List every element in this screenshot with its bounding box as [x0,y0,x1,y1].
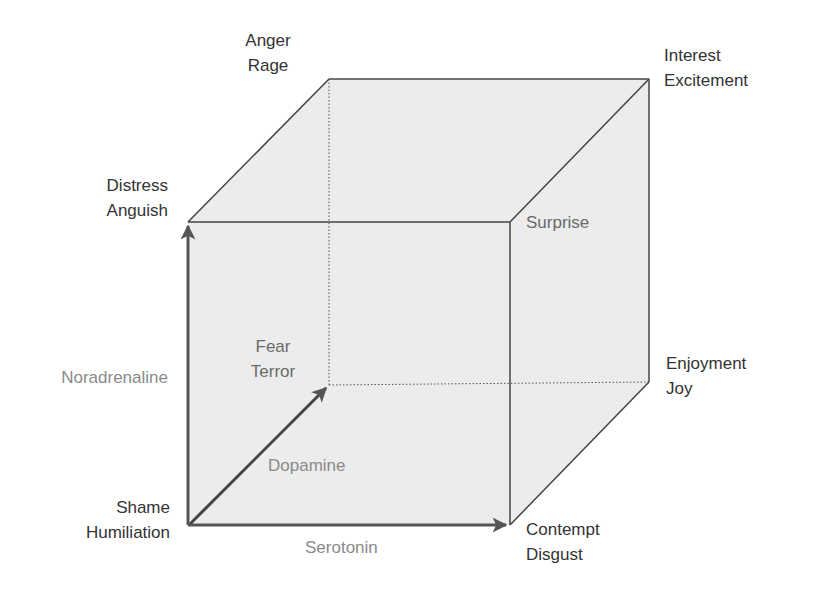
label-line: Distress [60,173,168,198]
corner-label-shame-humiliation: Shame Humiliation [40,495,170,545]
corner-label-distress-anguish: Distress Anguish [60,173,168,223]
label-line: Terror [233,359,313,384]
axis-label-dopamine: Dopamine [268,453,346,478]
label-line: Surprise [526,210,589,235]
label-line: Interest [664,43,748,68]
corner-label-interest-excitement: Interest Excitement [664,43,748,93]
label-line: Enjoyment [666,351,746,376]
corner-label-surprise: Surprise [526,210,589,235]
label-line: Contempt [526,517,600,542]
label-line: Excitement [664,68,748,93]
label-line: Anger [228,28,308,53]
corner-label-contempt-disgust: Contempt Disgust [526,517,600,567]
label-line: Fear [233,334,313,359]
label-line: Noradrenaline [20,365,168,390]
axis-label-noradrenaline: Noradrenaline [20,365,168,390]
label-line: Humiliation [40,520,170,545]
label-line: Anguish [60,198,168,223]
corner-label-enjoyment-joy: Enjoyment Joy [666,351,746,401]
label-line: Shame [40,495,170,520]
corner-label-fear-terror: Fear Terror [233,334,313,384]
label-line: Dopamine [268,453,346,478]
label-line: Rage [228,53,308,78]
corner-label-anger-rage: Anger Rage [228,28,308,78]
label-line: Serotonin [305,535,378,560]
label-line: Disgust [526,542,600,567]
axis-label-serotonin: Serotonin [305,535,378,560]
label-line: Joy [666,376,746,401]
